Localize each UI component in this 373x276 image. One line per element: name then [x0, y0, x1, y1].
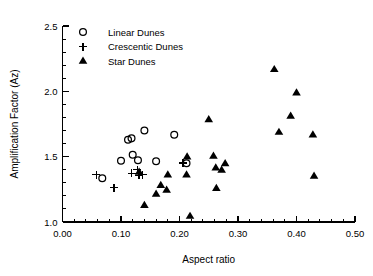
tick-marks	[63, 26, 356, 222]
y-tick-label: 2.5	[44, 21, 57, 32]
x-tick-label: 0.10	[112, 228, 131, 239]
data-point-triangle-marker	[286, 111, 295, 118]
plot-canvas: 0.000.100.200.300.400.501.01.52.02.5 Lin…	[0, 0, 373, 276]
data-point-triangle-marker	[211, 163, 220, 170]
scatter-plot-figure: 0.000.100.200.300.400.501.01.52.02.5 Lin…	[0, 0, 373, 276]
data-point-triangle-marker	[156, 181, 165, 188]
data-point-triangle-marker	[204, 115, 213, 122]
legend-1-circle-marker	[80, 29, 87, 36]
data-point-circle-marker	[135, 157, 142, 164]
data-point-triangle-marker	[309, 130, 318, 137]
data-point-triangle-marker	[209, 152, 218, 159]
data-point-triangle-marker	[275, 128, 284, 135]
data-point-circle-marker	[141, 127, 148, 134]
x-tick-label: 0.30	[229, 228, 248, 239]
data-point-circle-marker	[118, 157, 125, 164]
series-1	[99, 127, 190, 181]
data-point-circle-marker	[129, 151, 136, 158]
x-tick-label: 0.20	[170, 228, 189, 239]
data-point-circle-marker	[153, 158, 160, 165]
data-point-triangle-marker	[221, 159, 230, 166]
data-point-triangle-marker	[270, 65, 279, 72]
axes	[63, 26, 356, 222]
y-axis-title: Amplification Factor (Az)	[9, 70, 20, 179]
x-tick-label: 0.00	[53, 228, 72, 239]
data-point-triangle-marker	[212, 184, 221, 191]
x-tick-label: 0.50	[346, 228, 365, 239]
series-3	[135, 65, 319, 219]
y-tick-label: 2.0	[44, 86, 57, 97]
data-point-triangle-marker	[152, 189, 161, 196]
data-point-triangle-marker	[182, 170, 191, 177]
data-point-triangle-marker	[183, 152, 192, 159]
y-tick-label: 1.0	[44, 217, 57, 228]
data-point-circle-marker	[99, 175, 106, 182]
x-axis-title: Aspect ratio	[182, 254, 235, 265]
data-point-plus-marker	[128, 169, 136, 177]
legend-label: Crescentic Dunes	[108, 41, 183, 52]
data-point-triangle-marker	[140, 201, 149, 208]
data-point-plus-marker	[110, 184, 118, 192]
data-point-triangle-marker	[292, 88, 301, 95]
data-point-triangle-marker	[310, 172, 319, 179]
x-tick-label: 0.40	[287, 228, 306, 239]
y-tick-label: 1.5	[44, 151, 57, 162]
legend-label: Linear Dunes	[108, 27, 165, 38]
data-points	[92, 65, 318, 219]
legend-3-triangle-marker	[79, 57, 88, 64]
legend-label: Star Dunes	[108, 56, 156, 67]
tick-labels: 0.000.100.200.300.400.501.01.52.02.5	[44, 21, 364, 240]
data-point-triangle-marker	[186, 212, 195, 219]
data-point-triangle-marker	[164, 170, 173, 177]
data-point-circle-marker	[171, 131, 178, 138]
legend: Linear DunesCrescentic DunesStar Dunes	[79, 27, 184, 67]
legend-2-plus-marker	[79, 43, 87, 51]
